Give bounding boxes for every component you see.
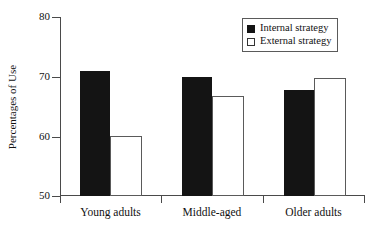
y-tick-label-80: 80 xyxy=(26,11,50,22)
legend-item-internal-strategy: Internal strategy xyxy=(247,22,331,35)
legend-label-internal-strategy: Internal strategy xyxy=(260,23,329,34)
y-tick-mark-70 xyxy=(52,77,60,78)
legend-label-external-strategy: External strategy xyxy=(260,36,331,47)
bar-external-middle-aged xyxy=(212,96,244,196)
bar-external-older-adults xyxy=(314,78,346,196)
x-tick-mark-0 xyxy=(60,196,61,203)
chart-legend: Internal strategy External strategy xyxy=(242,18,338,52)
x-axis-label-young-adults: Young adults xyxy=(60,206,161,218)
x-tick-mark-2 xyxy=(263,196,264,203)
open-square-icon xyxy=(247,38,255,46)
x-tick-mark-1 xyxy=(161,196,162,203)
x-axis-label-older-adults: Older adults xyxy=(263,206,364,218)
bar-chart: Percentages of Use 80 70 60 50 Young adu… xyxy=(0,0,381,232)
bar-internal-older-adults xyxy=(284,90,314,196)
y-axis-title: Percentages of Use xyxy=(2,17,22,196)
y-tick-label-60: 60 xyxy=(26,131,50,142)
y-tick-label-50: 50 xyxy=(26,190,50,201)
legend-item-external-strategy: External strategy xyxy=(247,35,331,48)
y-tick-label-70: 70 xyxy=(26,71,50,82)
y-tick-mark-80 xyxy=(52,17,60,18)
x-tick-mark-3 xyxy=(364,196,365,203)
x-axis-label-middle-aged: Middle-aged xyxy=(161,206,263,218)
bar-internal-young-adults xyxy=(80,71,110,196)
y-tick-mark-60 xyxy=(52,137,60,138)
y-axis-title-text: Percentages of Use xyxy=(6,64,18,148)
bar-external-young-adults xyxy=(110,136,142,196)
y-tick-mark-50 xyxy=(52,196,60,197)
bar-internal-middle-aged xyxy=(182,77,212,196)
filled-square-icon xyxy=(247,25,255,33)
